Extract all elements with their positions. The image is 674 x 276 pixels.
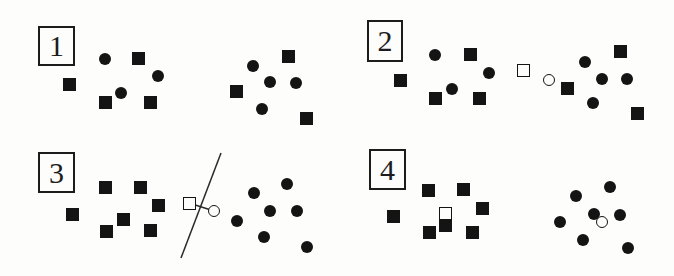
filled-circle-marker xyxy=(622,242,634,254)
filled-square-marker xyxy=(134,181,147,194)
filled-circle-marker xyxy=(281,178,293,190)
filled-square-marker xyxy=(144,96,157,109)
filled-square-marker xyxy=(473,92,486,105)
panel-1-label: 1 xyxy=(49,31,64,61)
open-circle-marker xyxy=(208,205,220,217)
filled-circle-marker xyxy=(614,209,626,221)
filled-circle-marker xyxy=(554,216,566,228)
panel-2-label: 2 xyxy=(378,26,393,56)
filled-square-marker xyxy=(614,45,627,58)
filled-circle-marker xyxy=(429,49,441,61)
filled-square-marker xyxy=(439,219,452,232)
filled-square-marker xyxy=(132,52,145,65)
filled-square-marker xyxy=(466,226,479,239)
filled-circle-marker xyxy=(596,73,608,85)
open-square-marker xyxy=(183,197,196,210)
filled-square-marker xyxy=(99,181,112,194)
filled-square-marker xyxy=(476,202,489,215)
filled-square-marker xyxy=(387,210,400,223)
filled-square-marker xyxy=(464,48,477,61)
filled-circle-marker xyxy=(621,73,633,85)
filled-square-marker xyxy=(561,82,574,95)
filled-square-marker xyxy=(394,74,407,87)
filled-square-marker xyxy=(282,50,295,63)
filled-square-marker xyxy=(66,208,79,221)
filled-circle-marker xyxy=(231,215,243,227)
open-circle-marker xyxy=(543,74,555,86)
filled-square-marker xyxy=(100,225,113,238)
filled-square-marker xyxy=(457,183,470,196)
filled-circle-marker xyxy=(301,241,313,253)
filled-square-marker xyxy=(99,96,112,109)
open-square-marker xyxy=(517,64,530,77)
filled-circle-marker xyxy=(604,181,616,193)
panel-3-label: 3 xyxy=(49,158,64,188)
filled-circle-marker xyxy=(99,53,111,65)
filled-circle-marker xyxy=(264,76,276,88)
filled-circle-marker xyxy=(247,60,259,72)
panel-2-label-box: 2 xyxy=(367,20,403,62)
filled-circle-marker xyxy=(579,56,591,68)
filled-square-marker xyxy=(117,213,130,226)
filled-square-marker xyxy=(429,92,442,105)
filled-square-marker xyxy=(300,112,313,125)
filled-square-marker xyxy=(422,184,435,197)
filled-circle-marker xyxy=(291,205,303,217)
diagram-canvas: 1234 xyxy=(0,0,674,276)
filled-circle-marker xyxy=(258,231,270,243)
filled-circle-marker xyxy=(577,234,589,246)
panel-4-label-box: 4 xyxy=(369,149,406,190)
filled-circle-marker xyxy=(248,187,260,199)
filled-circle-marker xyxy=(587,97,599,109)
filled-circle-marker xyxy=(570,190,582,202)
panel-1-label-box: 1 xyxy=(38,26,75,66)
panel-4-label: 4 xyxy=(380,155,395,185)
filled-square-marker xyxy=(230,85,243,98)
filled-circle-marker xyxy=(264,205,276,217)
filled-circle-marker xyxy=(446,83,458,95)
filled-circle-marker xyxy=(290,77,302,89)
filled-square-marker xyxy=(423,226,436,239)
filled-circle-marker xyxy=(256,103,268,115)
filled-circle-marker xyxy=(152,70,164,82)
filled-square-marker xyxy=(152,199,165,212)
filled-square-marker xyxy=(631,107,644,120)
open-circle-marker xyxy=(596,216,608,228)
panel-3-label-box: 3 xyxy=(38,152,75,193)
filled-circle-marker xyxy=(115,87,127,99)
filled-square-marker xyxy=(63,78,76,91)
filled-circle-marker xyxy=(483,67,495,79)
filled-square-marker xyxy=(144,224,157,237)
